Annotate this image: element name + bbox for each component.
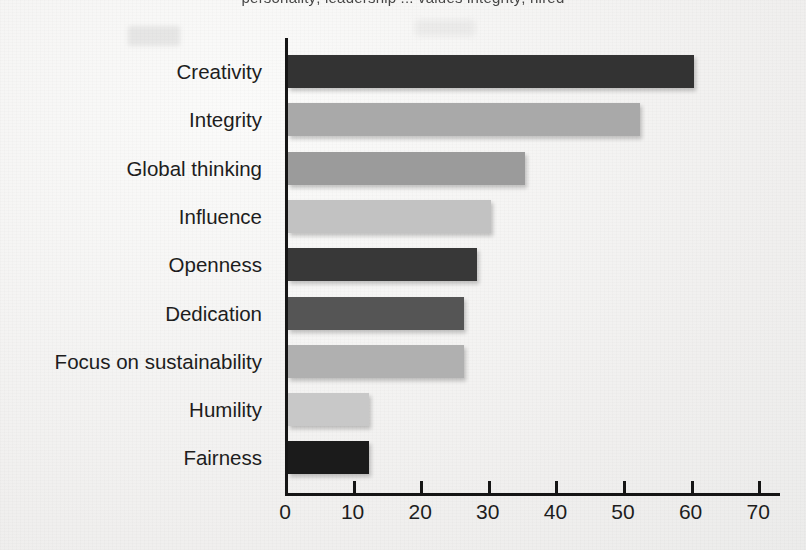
scanned-page: personality; leadership ... values integ… xyxy=(0,0,806,550)
x-axis-tick-label: 20 xyxy=(390,500,450,524)
bar xyxy=(288,297,464,330)
x-axis-tick xyxy=(420,481,423,494)
x-axis-tick xyxy=(488,481,491,494)
x-axis-tick-label: 70 xyxy=(728,500,788,524)
x-axis-tick-label: 60 xyxy=(661,500,721,524)
bar-series xyxy=(288,55,788,490)
x-axis-tick-label: 0 xyxy=(255,500,315,524)
x-axis-line xyxy=(285,493,780,496)
x-axis-tick xyxy=(353,481,356,494)
x-axis-tick xyxy=(623,481,626,494)
category-label: Influence xyxy=(179,200,262,233)
category-label: Focus on sustainability xyxy=(55,345,262,378)
category-label: Creativity xyxy=(177,55,262,88)
category-label: Openness xyxy=(169,248,262,281)
bar xyxy=(288,393,369,426)
bar xyxy=(288,55,694,88)
x-axis-tick xyxy=(691,481,694,494)
bar xyxy=(288,345,464,378)
x-axis-tick-label: 40 xyxy=(525,500,585,524)
category-label: Fairness xyxy=(183,441,262,474)
x-axis-tick-label: 30 xyxy=(458,500,518,524)
bar xyxy=(288,103,640,136)
y-axis-line xyxy=(285,38,288,493)
bar xyxy=(288,441,369,474)
category-label: Humility xyxy=(189,393,262,426)
category-label: Integrity xyxy=(189,103,262,136)
x-axis-tick xyxy=(758,481,761,494)
bar-chart: CreativityIntegrityGlobal thinkingInflue… xyxy=(0,0,806,550)
x-axis-tick xyxy=(555,481,558,494)
category-axis-labels: CreativityIntegrityGlobal thinkingInflue… xyxy=(0,55,272,490)
x-axis-tick-label: 10 xyxy=(323,500,383,524)
bar xyxy=(288,152,525,185)
x-axis-tick-label: 50 xyxy=(593,500,653,524)
bar xyxy=(288,248,477,281)
category-label: Dedication xyxy=(165,297,262,330)
bar xyxy=(288,200,491,233)
category-label: Global thinking xyxy=(126,152,262,185)
